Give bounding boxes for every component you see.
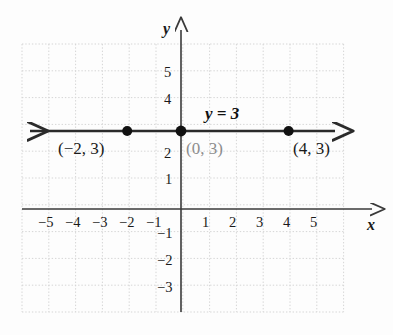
plotted-point-4-3 [284, 126, 294, 136]
coordinate-plane-figure: y x −5 −4 −3 −2 −1 1 2 3 4 5 5 4 2 1 −1 … [0, 0, 393, 335]
plotted-point-neg2-3 [122, 126, 132, 136]
graph-canvas [0, 0, 393, 335]
plotted-point-0-3 [176, 126, 187, 137]
